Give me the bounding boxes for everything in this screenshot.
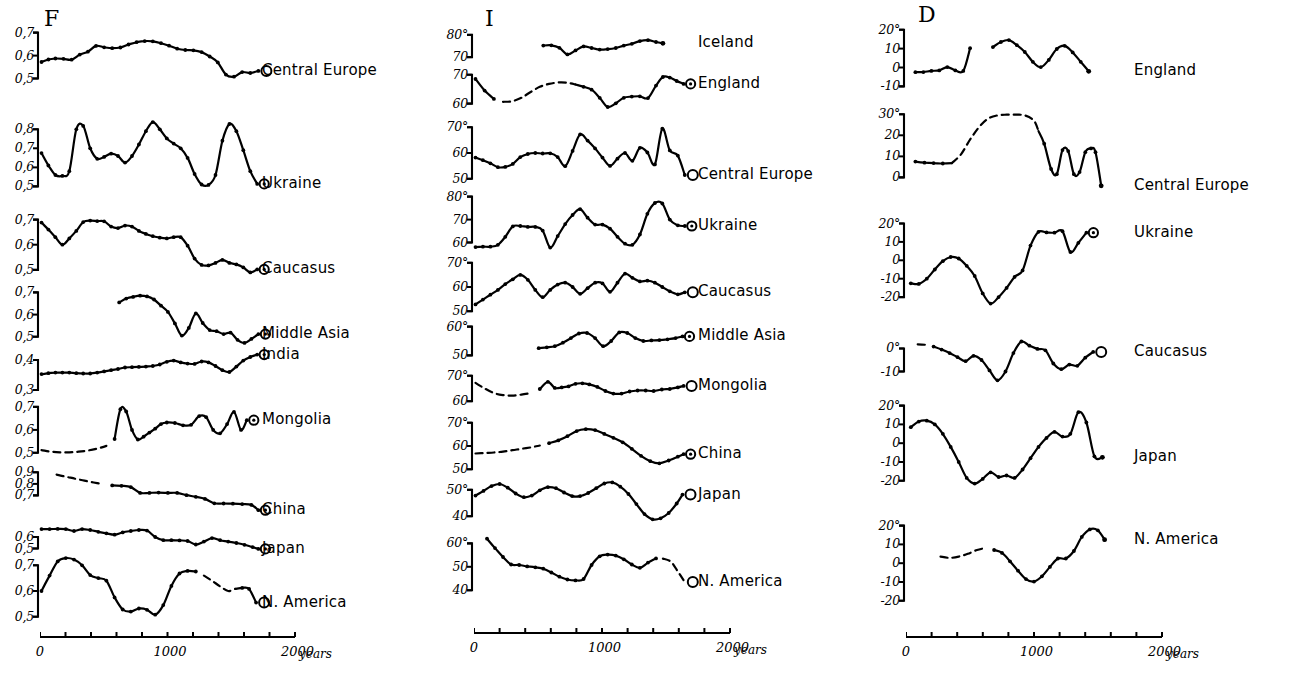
series-label-central-europe: Central Europe [698,165,813,183]
y-tick-label: 40 [432,582,468,597]
y-tick-label: 0 [864,252,900,267]
x-axis-unit: years [299,647,332,661]
y-tick-label: 20° [864,398,900,413]
y-tick-label: 0,4 [0,352,34,367]
y-tick-label: 60 [432,235,468,250]
series-track-japan: 50°40Japan [430,474,872,532]
y-tick-label: 80° [432,189,468,204]
y-tick-label: 10 [864,536,900,551]
y-tick-label: 40 [432,508,468,523]
y-tick-label: 0,7 [0,212,34,227]
series-track-india: 0,40,3India [0,348,440,390]
series-track-japan: 20°100-10-20Japan [860,400,1290,492]
y-tick-label: 20° [864,22,900,37]
panel-I: I80°70Iceland7060England70°6050Central E… [430,0,860,678]
series-label-caucasus: Caucasus [698,282,771,300]
y-tick-label: -10 [864,271,900,286]
y-tick-label: 70° [432,255,468,270]
panel-F: F0,70,60,5Central Europe0,80,70,60,5Ukra… [0,0,430,678]
y-tick-label: 0,6 [0,48,34,63]
series-track-central-europe: 30°20100Central Europe [860,108,1290,190]
y-tick-label: 60° [432,535,468,550]
y-tick-label: 0,6 [0,422,34,437]
y-tick-label: 10 [864,148,900,163]
series-track-china: 70°6050China [430,418,872,474]
y-tick-label: 20° [864,216,900,231]
series-track-caucasus: 70°6050Caucasus [430,258,872,316]
y-tick-label: 0,7 [0,140,34,155]
y-tick-label: 0,5 [0,329,34,344]
y-tick-label: -20 [864,289,900,304]
series-track-mongolia: 0,70,60,5Mongolia [0,400,440,462]
y-tick-label: 70° [432,119,468,134]
y-tick-label: 0,6 [0,307,34,322]
y-tick-label: 70 [432,49,468,64]
y-tick-label: 0,3 [0,382,34,397]
y-tick-label: 10 [864,234,900,249]
y-tick-label: 10 [864,416,900,431]
series-label-mongolia: Mongolia [262,410,331,428]
y-tick-label: 0° [864,340,900,355]
x-tick-label-1000: 1000 [588,640,616,655]
series-track-ukraine: 0,80,70,60,5Ukraine [0,116,440,194]
series-track-japan: 0,60,5Japan [0,500,440,552]
series-track-n-america: 60°5040N. America [430,534,872,602]
y-tick-label: -20 [864,593,900,608]
y-tick-label: 0,5 [0,609,34,624]
y-tick-label: 0 [864,60,900,75]
x-tick-label-0: 0 [892,644,920,659]
series-track-ukraine: 20°100-10-20Ukraine [860,218,1290,310]
y-tick-label: 60° [432,319,468,334]
y-tick-label: 70° [432,368,468,383]
y-tick-label: 20 [864,127,900,142]
y-tick-label: 60 [432,438,468,453]
y-tick-label: 50 [432,303,468,318]
y-tick-label: 0,5 [0,262,34,277]
series-track-central-europe: 0,70,60,5Central Europe [0,28,440,90]
y-tick-label: -20 [864,473,900,488]
y-tick-label: 0,6 [0,159,34,174]
series-label-england: England [698,74,760,92]
x-tick-label-1000: 1000 [1020,644,1048,659]
x-axis-unit: years [734,643,767,657]
series-label-n-america: N. America [698,572,783,590]
series-label-england: England [1134,61,1196,79]
y-tick-label: -10 [864,364,900,379]
series-track-mongolia: 70°60Mongolia [430,368,872,414]
y-tick-label: 80° [432,27,468,42]
y-tick-label: 0,8 [0,121,34,136]
series-label-mongolia: Mongolia [698,376,767,394]
series-track-iceland: 80°70Iceland [430,26,872,66]
y-tick-label: -10 [864,78,900,93]
series-track-england: 20°100-10England [860,24,1290,94]
y-tick-label: 0 [864,435,900,450]
y-tick-label: 0,6 [0,583,34,598]
series-track-central-europe: 70°6050Central Europe [430,122,872,184]
series-label-central-europe: Central Europe [1134,176,1249,194]
y-tick-label: 70° [432,415,468,430]
x-axis-unit: years [1166,647,1199,661]
y-tick-label: 30° [864,106,900,121]
y-tick-label: 50 [432,559,468,574]
series-label-japan: Japan [698,485,741,503]
y-tick-label: 0,5 [0,541,34,556]
y-tick-label: 50 [432,347,468,362]
y-tick-label: 0,7 [0,25,34,40]
series-label-n-america: N. America [262,593,347,611]
y-tick-label: 50° [432,482,468,497]
y-tick-label: 50 [432,171,468,186]
y-tick-label: 0,5 [0,178,34,193]
series-label-middle-asia: Middle Asia [262,324,350,342]
series-track-caucasus: 0°-10Caucasus [860,330,1290,390]
y-tick-label: -10 [864,574,900,589]
y-tick-label: 0,5 [0,445,34,460]
y-tick-label: 10 [864,41,900,56]
x-tick-label-0: 0 [460,640,488,655]
series-track-middle-asia: 60°50Middle Asia [430,318,872,364]
series-label-n-america: N. America [1134,530,1219,548]
y-tick-label: 60 [432,145,468,160]
y-tick-label: 0,7 [0,284,34,299]
x-tick-label-0: 0 [26,644,54,659]
y-tick-label: 0,7 [0,557,34,572]
y-tick-label: 0,6 [0,237,34,252]
